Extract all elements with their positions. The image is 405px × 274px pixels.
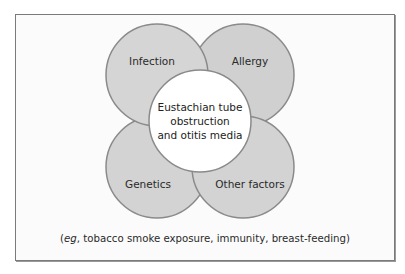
label-genetics: Genetics [125, 178, 171, 190]
center-label: Eustachian tube obstruction and otitis m… [152, 100, 248, 142]
caption-text: , tobacco smoke exposure, immunity, brea… [77, 233, 350, 244]
caption-eg: eg [64, 233, 77, 244]
center-line-2: obstruction [152, 114, 248, 128]
caption: (eg, tobacco smoke exposure, immunity, b… [60, 233, 350, 244]
label-infection: Infection [129, 55, 175, 67]
center-line-3: and otitis media [152, 128, 248, 142]
label-other-factors: Other factors [215, 178, 284, 190]
center-line-1: Eustachian tube [152, 100, 248, 114]
label-allergy: Allergy [232, 55, 269, 67]
